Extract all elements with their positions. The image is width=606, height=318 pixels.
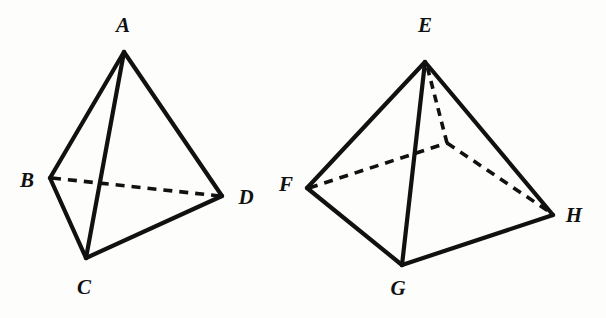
figure-canvas: A B C D E F G H [0, 0, 606, 318]
geometry-diagram [0, 0, 606, 318]
edge-F-G [307, 188, 402, 265]
vertex-label-B: B [20, 170, 34, 191]
vertex-label-H: H [566, 205, 582, 226]
edge-C-D [86, 196, 222, 258]
vertex-label-A: A [116, 15, 130, 36]
edge-B-D-hidden [52, 178, 220, 196]
tetrahedron-group [50, 52, 222, 258]
vertex-label-E: E [418, 15, 432, 36]
edge-B-C [50, 178, 86, 258]
edge-E-G [402, 62, 425, 265]
square-pyramid-group [307, 62, 553, 265]
vertex-label-D: D [238, 187, 253, 208]
vertex-label-C: C [77, 277, 91, 298]
edge-E-F [307, 62, 425, 188]
edge-A-D [124, 52, 222, 196]
edge-G-H [402, 215, 553, 265]
vertex-label-F: F [279, 174, 293, 195]
vertex-label-G: G [390, 278, 405, 299]
